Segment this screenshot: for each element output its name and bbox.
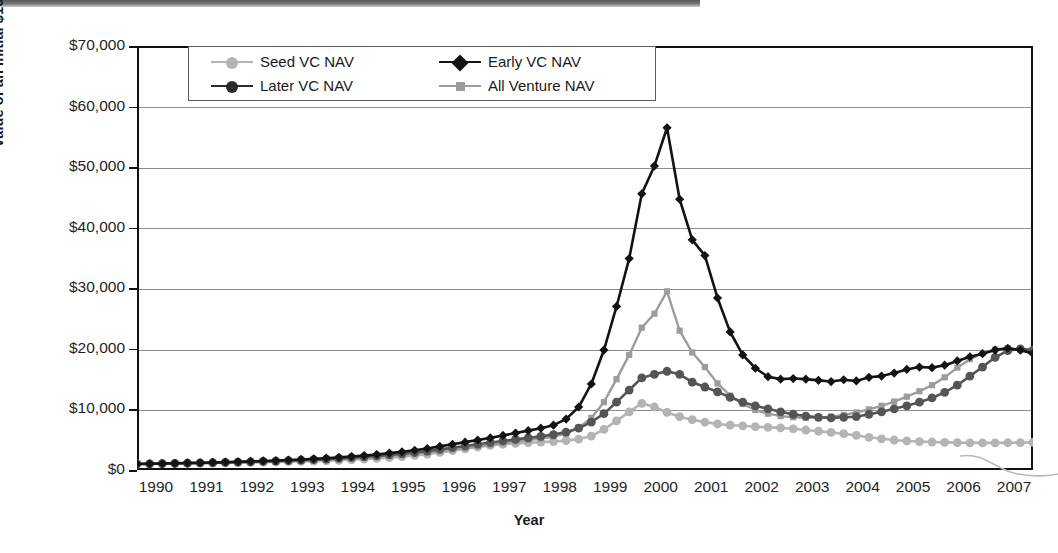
series-seed-vc-nav (133, 399, 1038, 468)
legend-label: All Venture NAV (488, 77, 594, 94)
legend-item[interactable]: Seed VC NAV (211, 53, 354, 70)
legend-item[interactable]: Early VC NAV (439, 53, 581, 70)
series-later-vc-nav (133, 344, 1038, 468)
venture-nav-line-chart: Value of an Initial $1000 $0$10,000$20,0… (0, 0, 1058, 553)
legend-marker-icon (211, 55, 253, 69)
chart-legend: Seed VC NAVEarly VC NAVLater VC NAVAll V… (188, 46, 656, 101)
series-early-vc-nav (132, 123, 1037, 468)
legend-item[interactable]: Later VC NAV (211, 77, 353, 94)
legend-label: Early VC NAV (488, 53, 581, 70)
legend-marker-icon (211, 79, 253, 93)
legend-marker-icon (439, 55, 481, 69)
x-axis-title: Year (0, 512, 1058, 528)
x-axis-tick: 2007 (984, 478, 1044, 496)
legend-item[interactable]: All Venture NAV (439, 77, 594, 94)
legend-marker-icon (439, 79, 481, 93)
legend-label: Seed VC NAV (260, 53, 354, 70)
legend-label: Later VC NAV (260, 77, 353, 94)
